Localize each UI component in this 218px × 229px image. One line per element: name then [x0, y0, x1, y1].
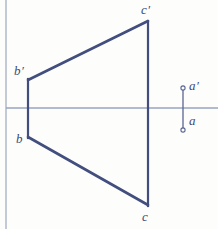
projection-diagram: b′ b c′ c a′ a [0, 0, 218, 229]
vertex-label-b: b [16, 132, 23, 145]
vertex-letter-a: a [189, 113, 196, 128]
vertex-letter-a-prime: a [189, 78, 196, 93]
segment-line-b-prime-c-prime [28, 21, 148, 80]
point-marker-a-prime [181, 86, 185, 90]
vertex-label-c-prime: c′ [141, 3, 151, 16]
vertex-letter-b: b [16, 131, 23, 146]
point-marker-a [181, 128, 185, 132]
prime-mark-a-prime: ′ [196, 78, 199, 93]
vertex-label-b-prime: b′ [14, 64, 24, 77]
segment-line-b-c [28, 137, 148, 205]
vertex-letter-c: c [142, 209, 148, 224]
projection-canvas [0, 0, 218, 229]
vertex-label-c: c [142, 210, 148, 223]
prime-mark-c-prime: ′ [147, 2, 150, 17]
prime-mark-b-prime: ′ [21, 63, 24, 78]
vertex-letter-b-prime: b [14, 63, 21, 78]
vertex-label-a-prime: a′ [189, 79, 199, 92]
vertex-label-a: a [189, 114, 196, 127]
